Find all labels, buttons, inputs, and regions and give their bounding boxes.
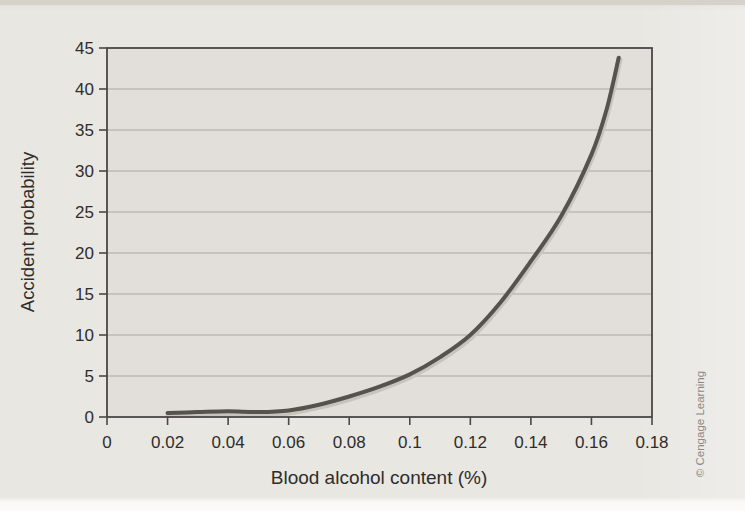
x-tick-label-0: 0 xyxy=(102,433,111,452)
x-tick-label-0.04: 0.04 xyxy=(212,433,245,452)
y-tick-label-5: 5 xyxy=(85,367,94,386)
x-tick-label-0.16: 0.16 xyxy=(575,433,608,452)
chart-svg: 05101520253035404500.020.040.060.080.10.… xyxy=(0,0,745,511)
plot-area-background xyxy=(107,48,652,417)
y-tick-label-25: 25 xyxy=(75,203,94,222)
y-tick-label-10: 10 xyxy=(75,326,94,345)
y-tick-label-35: 35 xyxy=(75,121,94,140)
x-tick-label-0.18: 0.18 xyxy=(635,433,668,452)
y-tick-label-45: 45 xyxy=(75,39,94,58)
x-tick-label-0.14: 0.14 xyxy=(514,433,547,452)
copyright-credit: © Cengage Learning xyxy=(694,371,706,477)
x-tick-label-0.06: 0.06 xyxy=(272,433,305,452)
y-tick-label-0: 0 xyxy=(85,408,94,427)
x-tick-label-0.08: 0.08 xyxy=(333,433,366,452)
x-tick-label-0.1: 0.1 xyxy=(398,433,422,452)
x-tick-label-0.02: 0.02 xyxy=(151,433,184,452)
y-axis-title: Accident probability xyxy=(17,151,38,312)
plot-background-layer xyxy=(107,48,652,417)
y-tick-label-40: 40 xyxy=(75,80,94,99)
y-tick-label-30: 30 xyxy=(75,162,94,181)
x-axis-title: Blood alcohol content (%) xyxy=(271,467,488,488)
y-tick-label-20: 20 xyxy=(75,244,94,263)
y-tick-label-15: 15 xyxy=(75,285,94,304)
x-tick-label-0.12: 0.12 xyxy=(454,433,487,452)
page-bottom-edge xyxy=(0,497,745,511)
scanned-figure-page: 05101520253035404500.020.040.060.080.10.… xyxy=(0,0,745,511)
